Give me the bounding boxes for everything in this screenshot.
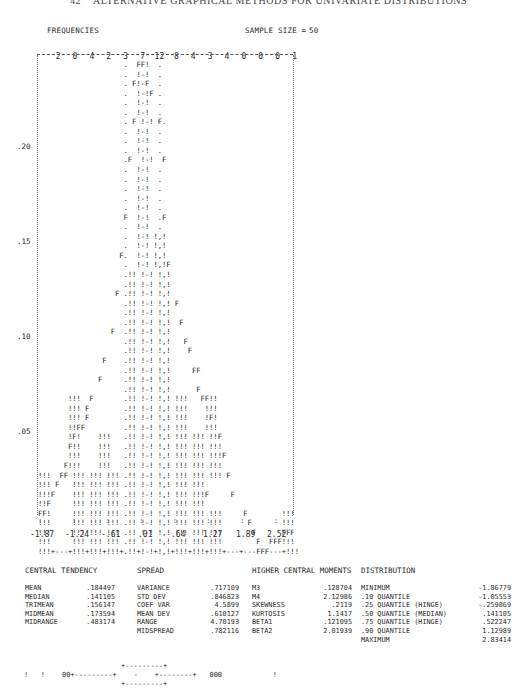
stat-row: MEAN.184497	[25, 584, 115, 593]
histogram-row: !!!F !!! !!! !!! .!! !-! !,! !!! !!!F F	[38, 490, 299, 500]
x-axis-label: .01	[138, 530, 152, 539]
stat-label: .50 QUANTILE (MEDIAN)	[361, 610, 451, 619]
stat-value: .184497	[77, 584, 115, 593]
histogram-row: !!F !!! !!! !!! .!! !-! !,! !!! !!!	[38, 499, 299, 509]
stat-value: .141105	[451, 610, 511, 619]
x-axis-label: -.61	[101, 530, 120, 539]
stat-value: .483174	[77, 618, 115, 627]
stat-value: 4.5899	[185, 601, 239, 610]
stat-label: KURTOSIS	[252, 610, 302, 619]
page-header: 42 ALTERNATIVE GRAPHICAL METHODS FOR UNI…	[70, 0, 467, 6]
stat-label: M3	[252, 584, 302, 593]
histogram-row: .F !-! F	[38, 155, 299, 165]
stat-value: .141105	[77, 593, 115, 602]
histogram-row: .!! !-! !,! FF	[38, 366, 299, 376]
stat-label: MIDMEAN	[25, 610, 77, 619]
moments-table: M3.128704M42.12986SKEWNESS.2119KURTOSIS1…	[252, 584, 352, 636]
stat-row: MAXIMUM2.83414	[361, 636, 511, 645]
stat-row: .25 QUANTILE (HINGE)-.259869	[361, 601, 511, 610]
histogram-plot: . FF! . . !-! . . F!-F . . !-!F . . !-! …	[38, 60, 299, 556]
stat-label: MIDRANGE	[25, 618, 77, 627]
stat-value: 2.01939	[302, 627, 352, 636]
distribution-table: MINIMUM-1.86779.10 QUANTILE-1.05553.25 Q…	[361, 584, 511, 644]
stat-label: BETA1	[252, 618, 302, 627]
spread-title: SPREAD	[137, 566, 164, 575]
stat-row: KURTOSIS1.1417	[252, 610, 352, 619]
boxplot-line: +---------+	[24, 662, 277, 671]
central-tendency-table: MEAN.184497MEDIAN.141105TRIMEAN.156147MI…	[25, 584, 115, 627]
histogram-row: . !-! .	[38, 165, 299, 175]
stat-label: RANGE	[137, 618, 185, 627]
stat-row: .50 QUANTILE (MEDIAN).141105	[361, 610, 511, 619]
sample-size-label: SAMPLE SIZE =	[245, 26, 306, 35]
stat-row: M3.128704	[252, 584, 352, 593]
x-axis-ticks: : : : : : : : :	[38, 517, 278, 525]
frequencies-label: FREQUENCIES	[47, 26, 99, 35]
stat-row: MIDMEAN.173594	[25, 610, 115, 619]
x-axis-label: -1.24	[65, 530, 89, 539]
histogram-row: !!! !!! .!! !-! !,! !!! !!! !!!F	[38, 451, 299, 461]
stat-label: M4	[252, 593, 302, 602]
stat-label: .75 QUANTILE (HINGE)	[361, 618, 451, 627]
stat-label: BETA2	[252, 627, 302, 636]
stat-row: COEF VAR4.5899	[137, 601, 239, 610]
spread-table: VARIANCE.717109STD DEV.846823COEF VAR4.5…	[137, 584, 239, 636]
stat-row: MINIMUM-1.86779	[361, 584, 511, 593]
x-axis-label: -1.87	[30, 530, 54, 539]
stat-label: COEF VAR	[137, 601, 185, 610]
frequency-counts-row: 2042371284340001	[40, 43, 303, 61]
histogram-row: . !-! .	[38, 108, 299, 118]
histogram-row: . F !-! F.	[38, 117, 299, 127]
boxplot-line: +---------+	[24, 680, 277, 689]
histogram-row: F!!! !!! .!! !-! !,! !!! !!! !!!	[38, 461, 299, 471]
stat-value: 2.12986	[302, 593, 352, 602]
stat-row: BETA1.121095	[252, 618, 352, 627]
stat-value: .782116	[185, 627, 239, 636]
stat-label: VARIANCE	[137, 584, 185, 593]
stat-value: -.259869	[451, 601, 511, 610]
stat-label: TRIMEAN	[25, 601, 77, 610]
histogram-row: !!!+---+!!!+!!!+!!!+.!!+!-!+!,!+!!!+!!!+…	[38, 547, 299, 557]
stat-label: SKEWNESS	[252, 601, 302, 610]
stat-value: .846823	[185, 593, 239, 602]
y-axis-label: .10	[17, 332, 31, 341]
histogram-row: F. !-! !,!	[38, 251, 299, 261]
y-axis-label: .05	[17, 427, 31, 436]
histogram-row: F .!! !-! !,!	[38, 356, 299, 366]
y-axis-label: .15	[17, 237, 31, 246]
histogram-row: F .!! !-! !,!	[38, 375, 299, 385]
histogram-row: . !-!F .	[38, 89, 299, 99]
histogram-row: F !-! .F	[38, 213, 299, 223]
histogram-row: . !-! .	[38, 175, 299, 185]
histogram-row: F .!! !-! !,!	[38, 327, 299, 337]
histogram-row: !!! F .!! !-! !,! !!! !!!	[38, 404, 299, 414]
x-axis-label: 1.27	[203, 530, 222, 539]
histogram-row: !!! F .!! !-! !,! !!! !F!	[38, 413, 299, 423]
stat-row: STD DEV.846823	[137, 593, 239, 602]
histogram-row: . !-! .	[38, 203, 299, 213]
stat-label: MEAN DEV	[137, 610, 185, 619]
histogram-row: . !-! .	[38, 194, 299, 204]
histogram-row: !!! F !!! !!! !!! .!! !-! !,! !!! !!!	[38, 480, 299, 490]
histogram-row: .!! !-! !,! F	[38, 385, 299, 395]
histogram-row: !F! !!! .!! !-! !,! !!! !!! !!F	[38, 432, 299, 442]
top-axis-line	[37, 54, 293, 55]
histogram-row: !!FF .!! !-! !,! !!! !!!	[38, 423, 299, 433]
stat-value: .156147	[77, 601, 115, 610]
stat-row: .10 QUANTILE-1.05553	[361, 593, 511, 602]
histogram-row: . !-! .	[38, 70, 299, 80]
stat-value: 4.70193	[185, 618, 239, 627]
histogram-row: .!! !-! !,! F	[38, 346, 299, 356]
stat-label: MAXIMUM	[361, 636, 451, 645]
boxplot-line: ! ! 00+---------+ - +--------+ 000 !	[24, 671, 277, 680]
stat-label: .10 QUANTILE	[361, 593, 451, 602]
boxplot: +---------+! ! 00+---------+ - +--------…	[24, 662, 277, 689]
stat-value: 1.12989	[451, 627, 511, 636]
stat-label: .90 QUANTILE	[361, 627, 451, 636]
stat-label: MIDSPREAD	[137, 627, 185, 636]
histogram-row: .!! !-! !,! F	[38, 337, 299, 347]
stat-value: .610127	[185, 610, 239, 619]
stat-value: .128704	[302, 584, 352, 593]
x-axis-label: .64	[171, 530, 185, 539]
histogram-row: . !-! !,!F	[38, 260, 299, 270]
